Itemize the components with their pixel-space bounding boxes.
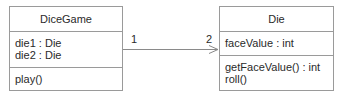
source-multiplicity: 1 <box>131 33 137 45</box>
association-line <box>0 0 344 95</box>
target-multiplicity: 2 <box>206 33 212 45</box>
